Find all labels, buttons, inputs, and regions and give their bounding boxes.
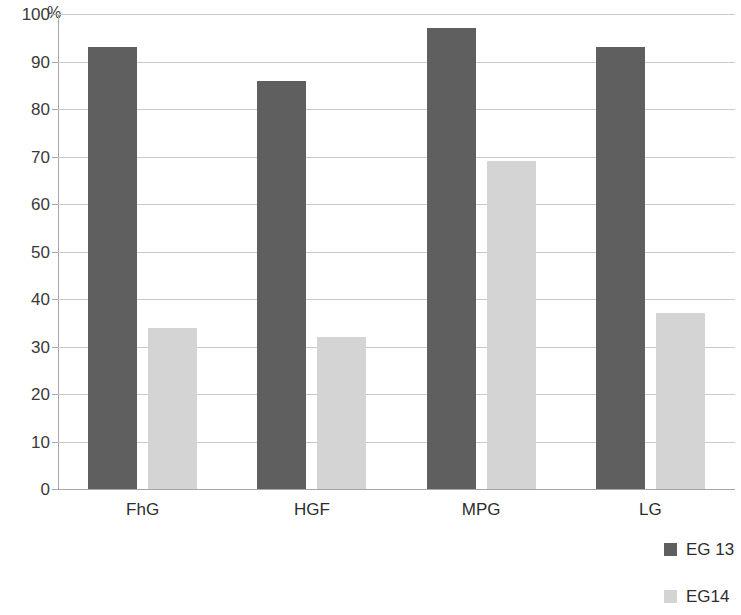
y-axis-tick-label: 30	[2, 339, 50, 356]
y-axis-tick	[52, 299, 58, 300]
y-axis-tick	[52, 252, 58, 253]
y-axis-tick-label: 40	[2, 291, 50, 308]
bar-lg-eg13	[596, 47, 645, 489]
chart-legend: EG 13EG14	[664, 540, 741, 615]
legend-label: EG 13	[686, 541, 734, 558]
x-axis-category-label: HGF	[227, 501, 396, 519]
y-axis-tick	[52, 489, 58, 490]
plot-area	[58, 14, 735, 489]
y-axis-tick-label: 20	[2, 386, 50, 403]
x-axis-category-label: FhG	[58, 501, 227, 519]
y-axis-tick	[52, 394, 58, 395]
bar-fhg-eg14	[148, 328, 197, 490]
bar-lg-eg14	[656, 313, 705, 489]
legend-label: EG14	[686, 588, 729, 605]
x-axis-category-label: MPG	[397, 501, 566, 519]
legend-swatch-icon	[664, 590, 677, 603]
bar-mpg-eg13	[427, 28, 476, 489]
y-axis-labels: 0102030405060708090100	[0, 14, 50, 489]
legend-item[interactable]: EG 13	[664, 540, 741, 559]
y-axis-tick	[52, 204, 58, 205]
bar-hgf-eg14	[317, 337, 366, 489]
y-axis-tick-label: 90	[2, 54, 50, 71]
legend-swatch-icon	[664, 543, 677, 556]
y-axis-tick-label: 70	[2, 149, 50, 166]
y-axis-tick-label: 60	[2, 196, 50, 213]
y-axis-tick-label: 0	[2, 481, 50, 498]
bar-hgf-eg13	[257, 81, 306, 490]
bar-fhg-eg13	[88, 47, 137, 489]
gridline	[58, 14, 735, 15]
y-axis-tick	[52, 347, 58, 348]
y-axis-tick	[52, 14, 58, 15]
y-axis-tick-label: 100	[2, 6, 50, 23]
x-axis-line	[58, 489, 735, 490]
y-axis-tick	[52, 109, 58, 110]
bar-mpg-eg14	[487, 161, 536, 489]
y-axis-tick	[52, 157, 58, 158]
y-axis-tick	[52, 62, 58, 63]
y-axis-tick-label: 10	[2, 434, 50, 451]
x-axis-category-label: LG	[566, 501, 735, 519]
legend-item[interactable]: EG14	[664, 587, 741, 606]
y-axis-tick	[52, 442, 58, 443]
y-axis-tick-label: 50	[2, 244, 50, 261]
y-axis-tick-label: 80	[2, 101, 50, 118]
bar-chart: % 0102030405060708090100 FhGHGFMPGLG EG …	[0, 0, 741, 615]
